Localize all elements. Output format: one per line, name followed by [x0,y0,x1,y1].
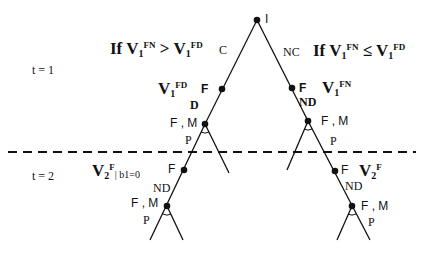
value-right-t2: V2F [359,161,382,181]
node-label-lower-left-fm: F , M [131,196,158,210]
node-right-f [289,85,296,92]
node-label-left-f: F [201,82,208,96]
node-lower-left-f [181,167,188,174]
node-lower-right-fm [349,203,356,210]
action-label-d: D [190,98,199,112]
p-label-right-t2: P [368,215,375,229]
node-root [254,17,261,24]
edge-root-left [205,20,257,124]
time-label-t1: t = 1 [32,63,54,77]
value-left-t1: V1FD [158,79,188,99]
action-label-nc: NC [283,45,300,59]
node-label-left-fm: F , M [170,116,197,130]
node-lower-right-f [332,168,339,175]
p-label-left-t1: P [185,133,192,147]
node-label-right-fm: F , M [321,114,348,128]
node-lower-left-fm [164,203,171,210]
node-label-lower-right-fm: F , M [361,199,388,213]
condition-left: If V1FN > V1FD [110,39,203,59]
edge-lower-left-fm-right [167,206,183,240]
node-left-f [219,86,226,93]
value-right-t1: V1FN [322,78,352,98]
node-left-fm [202,121,209,128]
edge-lower-right-fm-left [337,206,352,240]
node-right-fm [305,118,312,125]
node-label-lower-left-f: F [168,162,175,176]
node-label-right-f: F [299,81,306,95]
action-label-nd-lower-right: ND [345,179,363,193]
root-label: I [265,12,268,26]
game-tree-diagram: t = 1 t = 2 I C NC [0,0,424,255]
action-label-nd-lower-left: ND [153,181,171,195]
condition-right: If V1FN ≤ V1FD [313,41,406,61]
action-label-nd-t1: ND [299,95,317,109]
value-left-t2: V2F| b1=0 [92,161,140,181]
action-label-c: C [219,43,227,57]
p-label-left-t2: P [143,213,150,227]
node-label-lower-right-f: F [341,163,348,177]
edge-right-fm-left [287,121,308,170]
decision-arcs [163,129,356,215]
edge-left-fm-right [205,124,229,173]
time-label-t2: t = 2 [32,169,54,183]
p-label-right-t1: P [330,134,337,148]
